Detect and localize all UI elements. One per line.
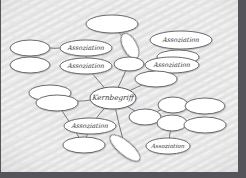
node-ellipse [114, 57, 144, 71]
node-ellipse [185, 98, 225, 114]
node-ellipse [10, 40, 50, 56]
node-ellipse [135, 71, 177, 87]
node-ellipse [184, 117, 226, 133]
node-label: Assoziation [66, 62, 105, 70]
node-ellipse [36, 95, 78, 111]
node-empty[interactable] [135, 71, 177, 87]
node-assoziation[interactable]: Assoziation [150, 31, 212, 49]
node-empty[interactable] [185, 98, 225, 114]
node-label: Kernbegriff [91, 93, 137, 102]
node-ellipse [86, 15, 138, 33]
node-empty[interactable] [36, 95, 78, 111]
node-empty[interactable] [86, 15, 138, 33]
node-empty[interactable] [157, 115, 187, 131]
node-label: Assoziation [152, 61, 191, 69]
node-assoziation[interactable]: Assoziation [146, 138, 190, 154]
node-assoziation[interactable]: Assoziation [60, 40, 112, 56]
node-empty[interactable] [184, 117, 226, 133]
node-empty[interactable] [10, 57, 50, 73]
node-label: Assoziation [66, 44, 105, 52]
node-assoziation[interactable]: Assoziation [60, 58, 112, 74]
mindmap-svg: KernbegriffAssoziationAssoziationAssozia… [0, 0, 246, 178]
node-ellipse [10, 57, 50, 73]
node-ellipse [158, 97, 188, 113]
node-ellipse [129, 109, 161, 125]
node-empty[interactable] [114, 57, 144, 71]
node-ellipse [157, 115, 187, 131]
node-ellipse [63, 137, 105, 153]
node-empty[interactable] [158, 97, 188, 113]
node-assoziation[interactable]: Assoziation [64, 118, 116, 134]
node-empty[interactable] [10, 40, 50, 56]
node-empty[interactable] [129, 109, 161, 125]
node-label: Assoziation [150, 143, 185, 149]
frame-right-edge [238, 0, 246, 178]
frame-bottom-edge [0, 172, 246, 178]
frame-left-edge [0, 0, 1, 178]
node-core[interactable]: Kernbegriff [90, 87, 136, 109]
node-label: Assoziation [161, 36, 200, 44]
node-label: Assoziation [70, 122, 109, 130]
mindmap-canvas: KernbegriffAssoziationAssoziationAssozia… [0, 0, 246, 178]
node-assoziation[interactable]: Assoziation [145, 57, 199, 73]
node-empty[interactable] [63, 137, 105, 153]
